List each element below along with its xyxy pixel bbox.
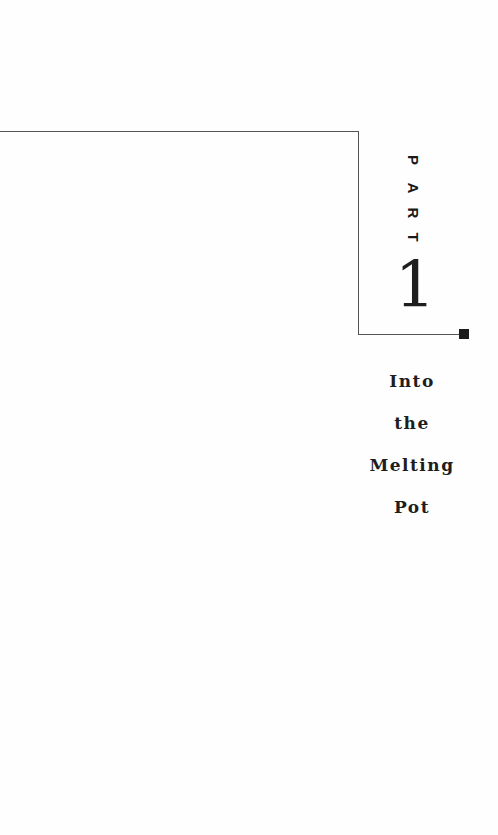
book-page: P A R T 1 Into the Melting Pot — [0, 0, 498, 835]
top-horizontal-rule — [0, 131, 359, 132]
part-letter-a: A — [405, 180, 421, 196]
part-letter-t: T — [405, 229, 421, 245]
bottom-horizontal-rule — [358, 334, 462, 335]
title-line-3: Melting — [352, 450, 472, 492]
part-label: P A R T — [405, 152, 421, 248]
square-marker-icon — [459, 329, 469, 339]
vertical-rule — [358, 131, 359, 335]
part-letter-p: P — [405, 152, 421, 168]
title-line-2: the — [352, 408, 472, 450]
part-title: Into the Melting Pot — [352, 366, 472, 534]
part-number: 1 — [392, 250, 438, 320]
part-letter-r: R — [405, 205, 421, 221]
title-line-1: Into — [352, 366, 472, 408]
title-line-4: Pot — [352, 492, 472, 534]
